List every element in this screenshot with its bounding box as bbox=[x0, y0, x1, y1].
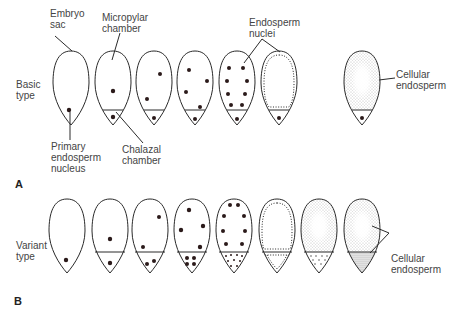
variant-stage-4 bbox=[174, 199, 210, 273]
basic-stage-1 bbox=[53, 51, 89, 125]
variant-stage-8-cellular bbox=[342, 196, 382, 276]
label-cellular-endosperm-a: Cellular endosperm bbox=[396, 69, 446, 91]
label-primary-endosperm-nucleus: Primary endosperm nucleus bbox=[51, 141, 101, 174]
variant-stage-1 bbox=[49, 199, 85, 273]
variant-stage-5 bbox=[216, 199, 252, 273]
variant-stage-2 bbox=[92, 199, 128, 273]
row-label-variant-type: Variant type bbox=[16, 240, 47, 262]
panel-label-b: B bbox=[14, 295, 22, 307]
label-embryo-sac: Embryo sac bbox=[50, 8, 84, 30]
label-endosperm-nuclei: Endosperm nuclei bbox=[249, 17, 300, 39]
variant-stage-3 bbox=[132, 199, 168, 273]
label-cellular-endosperm-b: Cellular endosperm bbox=[391, 253, 441, 275]
basic-stage-2 bbox=[95, 51, 131, 125]
panel-label-a: A bbox=[15, 178, 23, 190]
label-micropylar-chamber: Micropylar chamber bbox=[102, 12, 148, 34]
row-label-basic-type: Basic type bbox=[16, 79, 40, 101]
basic-stage-3 bbox=[136, 51, 172, 125]
variant-stage-6 bbox=[259, 199, 295, 273]
variant-stage-7 bbox=[299, 196, 339, 273]
basic-stage-5 bbox=[219, 51, 255, 125]
basic-stage-4 bbox=[177, 51, 213, 125]
label-chalazal-chamber: Chalazal chamber bbox=[122, 144, 161, 166]
basic-stage-7-cellular bbox=[342, 48, 382, 125]
basic-stage-6 bbox=[261, 51, 297, 125]
